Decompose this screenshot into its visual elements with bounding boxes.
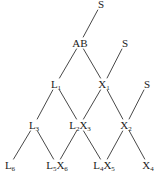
node-label: X: [98, 78, 106, 90]
node-label: L: [93, 159, 100, 171]
node-subscript: 6: [12, 165, 16, 173]
tree-edges: [0, 0, 157, 180]
edge-s_mid-x1: [107, 48, 123, 78]
node-label: L: [5, 159, 12, 171]
node-l5x6: L5X6: [45, 160, 69, 171]
edge-l1-l2x3: [59, 89, 77, 120]
node-label: L: [46, 159, 53, 171]
node-label: L: [29, 119, 36, 131]
node-x2: X2: [119, 120, 132, 131]
node-subscript: 1: [58, 84, 62, 92]
node-l3: L3: [28, 120, 40, 131]
node-label: S: [144, 78, 150, 90]
node-subscript: 3: [36, 125, 40, 133]
node-label: S: [122, 37, 128, 49]
edge-x2-l4x5: [107, 130, 123, 159]
node-label: L: [51, 78, 58, 90]
node-label-second: X: [56, 159, 64, 171]
node-label: X: [120, 119, 128, 131]
node-subscript: 2: [128, 125, 132, 133]
node-subscript-second: 3: [87, 125, 91, 133]
edge-x1-x2: [107, 89, 123, 119]
node-ab: AB: [71, 38, 88, 49]
node-x4: X4: [141, 160, 154, 171]
node-label: AB: [72, 37, 87, 49]
node-label-second: X: [103, 159, 111, 171]
edge-l2x3-l5x6: [60, 130, 77, 160]
node-l6: L6: [4, 160, 16, 171]
node-label-second: X: [79, 119, 87, 131]
edge-ab-x1: [83, 48, 101, 79]
edge-ab-l1: [59, 48, 77, 79]
node-subscript-second: 6: [64, 165, 68, 173]
node-subscript-second: 5: [111, 165, 115, 173]
node-label: S: [98, 0, 104, 10]
node-label: X: [142, 159, 150, 171]
edge-x1-l2x3: [83, 89, 101, 120]
edge-l3-l5x6: [37, 130, 54, 160]
node-label: L: [69, 119, 76, 131]
edge-s_top-ab: [83, 9, 98, 37]
node-s_mid: S: [121, 38, 129, 49]
node-subscript: 4: [150, 165, 154, 173]
node-s_top: S: [97, 0, 105, 10]
node-l2x3: L2X3: [68, 120, 92, 131]
edge-x2-x4: [129, 130, 145, 159]
node-l1: L1: [50, 79, 62, 90]
node-l4x5: L4X5: [92, 160, 116, 171]
node-x1: X1: [97, 79, 110, 90]
edge-l1-l3: [37, 89, 53, 119]
edge-s_right-x2: [129, 89, 145, 119]
node-subscript: 1: [106, 84, 110, 92]
edge-l3-l6: [13, 130, 31, 160]
edge-l2x3-l4x5: [83, 130, 101, 160]
node-s_right: S: [143, 79, 151, 90]
